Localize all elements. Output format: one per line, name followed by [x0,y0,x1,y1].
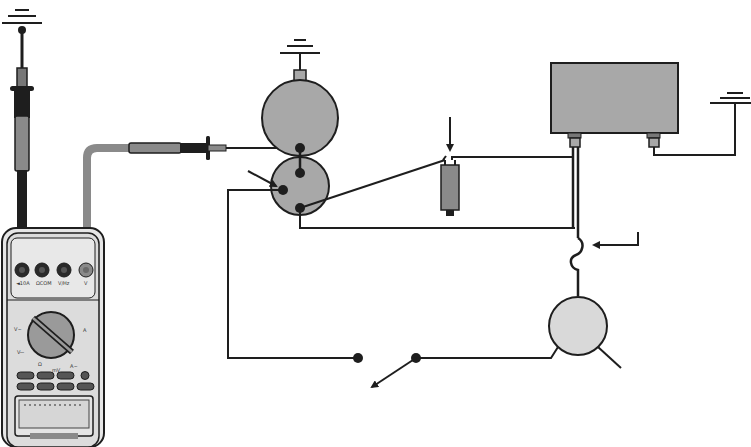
dial-label-a: A [83,327,87,333]
multimeter[interactable]: ◄10A ΩCOM V/Hz V V~ V⎓ Ω mV A A~ [2,228,104,447]
dial-label-ohm: Ω [38,361,42,367]
large-component[interactable] [262,80,338,156]
small-component[interactable] [271,148,329,215]
circuit-diagram: ◄10A ΩCOM V/Hz V V~ V⎓ Ω mV A A~ [0,0,751,447]
lcd-display [15,396,93,439]
jack-com[interactable] [35,263,49,277]
jack-10a[interactable] [15,263,29,277]
red-test-lead[interactable] [87,136,300,270]
ground-icon-component [280,40,320,82]
arrow-wire-loop [594,232,638,245]
module-to-motor-wire [571,147,583,296]
motor[interactable] [417,297,621,368]
jack-label-com: ΩCOM [36,280,52,286]
dial-label-v-dc: V⎓ [17,349,24,355]
jack-label-10a: ◄10A [16,280,30,286]
switch[interactable] [353,353,421,387]
control-module[interactable] [551,63,678,147]
dial-label-a-ac: A~ [70,363,78,369]
inline-connector[interactable] [441,156,459,216]
jack-vhz[interactable] [57,263,71,277]
dial-label-v-ac: V~ [14,326,22,332]
jack-v[interactable] [79,263,93,277]
jack-label-vhz: V/Hz [58,280,70,286]
jack-label-v: V [84,280,88,286]
ground-icon-right [710,93,751,103]
rotary-dial[interactable] [28,312,74,358]
